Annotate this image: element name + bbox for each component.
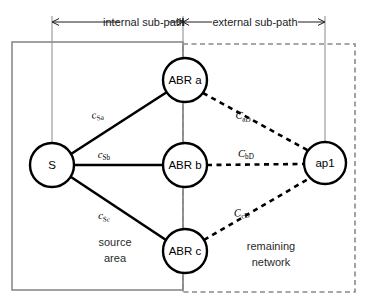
edge-label-abr-a-ap1-sub: aD [242,115,251,124]
node-abr-b-label: ABR b [168,159,201,171]
span-internal-sub-path: internal sub-path [52,16,185,28]
node-ap1[interactable]: ap1 [304,142,346,184]
edge-label-s-abr-b: cSb [98,149,111,162]
node-s[interactable]: S [30,143,74,187]
edge-label-s-abr-c: cSc [98,209,111,224]
span-external-label: external sub-path [213,16,298,28]
svg-text:cSc: cSc [98,209,111,224]
source-area-label-line1: source [98,236,131,248]
edge-label-s-abr-a: cSa [91,108,105,123]
edge-label-s-abr-b-sub: Sb [103,154,111,162]
svg-text:CbD: CbD [238,148,254,161]
diagram-canvas: internal sub-path external sub-path sour… [0,0,366,305]
edge-label-abr-c-ap1-sub: cD [241,212,250,221]
svg-text:CaD: CaD [235,109,252,124]
edge-abr-a-ap1 [203,93,309,151]
node-abr-a[interactable]: ABR a [163,58,207,102]
network-diagram: internal sub-path external sub-path sour… [0,0,366,305]
edge-s-abr-c [71,177,166,240]
edge-label-abr-a-ap1: CaD [235,109,252,124]
span-external-sub-path: external sub-path [183,16,325,28]
node-abr-b[interactable]: ABR b [163,143,207,187]
edge-label-abr-b-ap1-sub: bD [245,153,254,161]
edge-label-s-abr-c-sub: Sc [102,215,110,224]
remaining-network-label-line1: remaining [247,240,295,252]
node-abr-a-label: ABR a [168,74,202,86]
source-area-label-line2: area [104,252,127,264]
svg-text:cSb: cSb [98,149,111,162]
remaining-network-label-line2: network [252,256,291,268]
edge-label-abr-c-ap1: CcD [233,206,250,221]
edges-external [203,93,310,240]
edges-internal [71,92,167,240]
edge-label-s-abr-a-sub: Sa [96,113,105,122]
node-ap1-label: ap1 [315,157,334,169]
svg-text:cSa: cSa [91,108,105,123]
edge-abr-b-ap1 [207,164,304,165]
edge-s-abr-a [71,92,167,154]
edge-label-abr-b-ap1: CbD [238,148,254,161]
span-internal-label: internal sub-path [103,16,185,28]
svg-text:CcD: CcD [233,206,250,221]
node-abr-c[interactable]: ABR c [163,229,207,273]
node-abr-c-label: ABR c [169,245,202,257]
node-s-label: S [48,159,56,171]
span-annotations: internal sub-path external sub-path [52,16,325,28]
edge-abr-c-ap1 [204,178,310,240]
